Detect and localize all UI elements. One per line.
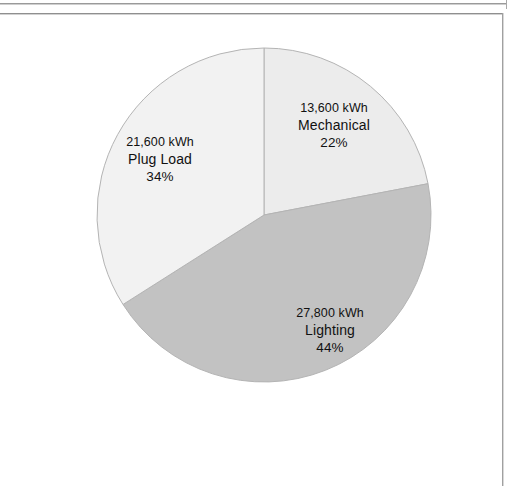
slice-name-mechanical: Mechanical <box>272 117 396 135</box>
slice-percent-mechanical: 22% <box>272 134 396 151</box>
page-frame-top-inner-rule-shadow <box>0 14 504 15</box>
pie-chart: 13,600 kWh Mechanical 22% 21,600 kWh Plu… <box>0 16 502 486</box>
slice-name-lighting: Lighting <box>268 322 392 340</box>
slice-label-plug-load: 21,600 kWh Plug Load 34% <box>98 135 222 185</box>
page-frame-right-outer-rule <box>506 0 507 9</box>
slice-value-lighting: 27,800 kWh <box>268 306 392 322</box>
slice-percent-plug-load: 34% <box>98 168 222 185</box>
slice-value-mechanical: 13,600 kWh <box>272 101 396 117</box>
slice-percent-lighting: 44% <box>268 339 392 356</box>
slice-label-lighting: 27,800 kWh Lighting 44% <box>268 306 392 356</box>
page-frame-right-inner-rule-shadow <box>503 13 504 486</box>
page-canvas: 13,600 kWh Mechanical 22% 21,600 kWh Plu… <box>0 0 514 486</box>
page-frame-top-outer-rule-shadow <box>0 4 507 5</box>
slice-name-plug-load: Plug Load <box>98 151 222 169</box>
slice-value-plug-load: 21,600 kWh <box>98 135 222 151</box>
slice-label-mechanical: 13,600 kWh Mechanical 22% <box>272 101 396 151</box>
